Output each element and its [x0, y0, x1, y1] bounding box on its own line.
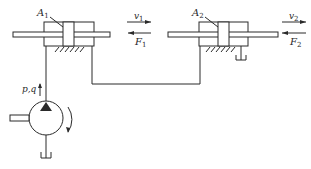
area-2-label: A2	[191, 7, 204, 20]
pump-output-label: p,q	[22, 84, 37, 94]
area-1-label: A1	[36, 7, 49, 20]
cylinder-1-to-cylinder-2-line	[92, 46, 200, 84]
velocity-1-label: v1	[134, 11, 144, 23]
force-1-label: F1	[134, 36, 146, 49]
cylinder-2-piston	[218, 22, 229, 46]
pump	[10, 83, 72, 158]
force-2-label: F2	[289, 36, 301, 49]
cylinder-1-rod	[13, 32, 110, 37]
pump-shaft	[10, 115, 29, 121]
cylinder-2	[168, 17, 306, 60]
velocity-2-label: v2	[289, 11, 299, 23]
cylinder-1-ground-hatch	[55, 47, 84, 52]
cylinder-1-piston	[63, 22, 74, 46]
cylinder-2-ground-hatch	[206, 47, 235, 52]
cylinder-1	[13, 17, 151, 52]
hydraulic-circuit-diagram: A1 v1 F1 A2 v2 F2 p,q	[0, 0, 311, 169]
